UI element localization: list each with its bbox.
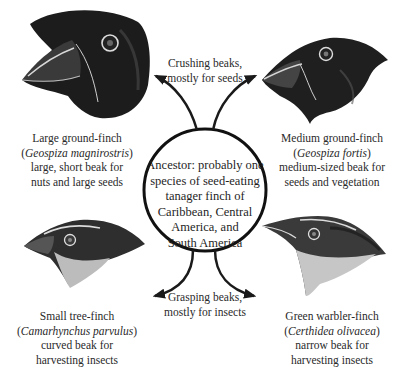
crushing-beaks-line1: Crushing beaks, [150,56,260,71]
finch-scientific-name-text: Camarhynchus parvulus [21,325,134,337]
grasping-beaks-line1: Grasping beaks, [148,290,262,305]
ancestor-text: Ancestor: probably one species of seed-e… [140,158,270,251]
finch-scientific-name-text: Certhidea olivacea [288,325,376,337]
finch-description: narrow beak for [262,338,402,353]
medium-ground-finch-illustration [262,38,388,124]
finch-common-name: Large ground-finch [4,131,150,146]
finch-common-name: Medium ground-finch [262,131,402,146]
finch-scientific-name-text: Geospiza fortis [297,147,367,159]
finch-description: harvesting insects [262,353,402,368]
ancestor-line: species of seed-eating [140,174,270,190]
small-tree-finch-illustration [24,220,145,288]
large-ground-finch-illustration [22,10,150,118]
large-ground-finch-caption: Large ground-finch (Geospiza magnirostri… [4,131,150,189]
finch-description: curved beak for [4,338,150,353]
ancestor-line: America, and [140,220,270,236]
ancestor-line: tanager finch of [140,189,270,205]
finch-scientific-name-text: Geospiza magnirostris [25,147,129,159]
crushing-beaks-line2: mostly for seeds [150,71,260,86]
finch-scientific-name: (Geospiza magnirostris) [4,146,150,161]
finch-description: nuts and large seeds [4,175,150,190]
finch-scientific-name: (Certhidea olivacea) [262,324,402,339]
green-warbler-finch-illustration [262,216,386,296]
medium-ground-finch-caption: Medium ground-finch (Geospiza fortis) me… [262,131,402,189]
green-warbler-finch-caption: Green warbler-finch (Certhidea olivacea)… [262,309,402,367]
finch-description: large, short beak for [4,160,150,175]
crushing-beaks-label: Crushing beaks, mostly for seeds [150,56,260,85]
finch-common-name: Small tree-finch [4,309,150,324]
ancestor-line: Ancestor: probably one [140,158,270,174]
finch-scientific-name: (Camarhynchus parvulus) [4,324,150,339]
grasping-beaks-label: Grasping beaks, mostly for insects [148,290,262,319]
ancestor-line: South America [140,236,270,252]
grasping-beaks-line2: mostly for insects [148,305,262,320]
finch-description: medium-sized beak for [262,160,402,175]
finch-description: harvesting insects [4,353,150,368]
small-tree-finch-caption: Small tree-finch (Camarhynchus parvulus)… [4,309,150,367]
ancestor-line: Caribbean, Central [140,205,270,221]
finch-description: seeds and vegetation [262,175,402,190]
finch-scientific-name: (Geospiza fortis) [262,146,402,161]
finch-common-name: Green warbler-finch [262,309,402,324]
